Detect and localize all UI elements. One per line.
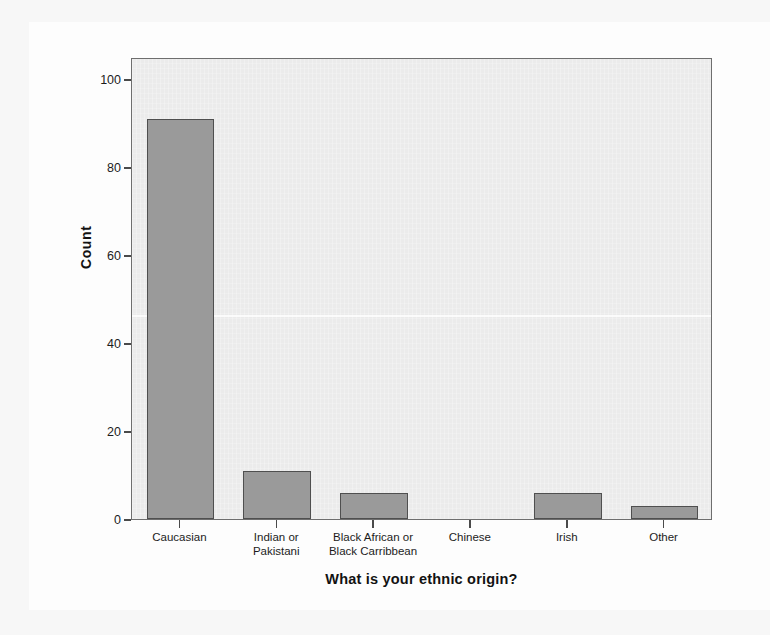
y-axis-tick-label: 20 <box>107 426 124 439</box>
y-axis-tick-label: 100 <box>100 74 124 87</box>
x-axis-tick-mark <box>276 520 278 528</box>
x-axis-tick-mark <box>469 520 471 528</box>
y-axis-tick-mark <box>124 255 131 257</box>
y-axis-tick-mark <box>124 167 131 169</box>
bar <box>147 119 215 519</box>
x-axis-tick-label: Irish <box>518 531 615 545</box>
x-axis-tick-mark <box>663 520 665 528</box>
y-axis-tick-mark <box>124 519 131 521</box>
x-axis-tick-label: Chinese <box>422 531 519 545</box>
y-axis-tick-label: 0 <box>114 514 124 527</box>
y-axis: 020406080100 <box>29 22 131 610</box>
x-axis-tick-label: Indian or Pakistani <box>228 531 325 558</box>
scan-artifact-line <box>132 315 711 317</box>
y-axis-title: Count <box>78 226 94 269</box>
bar-chart-figure: 020406080100 Count CaucasianIndian or Pa… <box>29 22 770 610</box>
y-axis-tick-label: 80 <box>107 162 124 175</box>
y-axis-tick-label: 60 <box>107 250 124 263</box>
x-axis-tick-label: Black African or Black Carribbean <box>325 531 422 558</box>
bar <box>243 471 311 519</box>
bar <box>631 506 699 519</box>
y-axis-tick-mark <box>124 79 131 81</box>
bar <box>534 493 602 519</box>
x-axis-tick-label: Caucasian <box>131 531 228 545</box>
x-axis-tick-mark <box>566 520 568 528</box>
x-axis-tick-mark <box>179 520 181 528</box>
x-axis-tick-label: Other <box>615 531 712 545</box>
bar <box>340 493 408 519</box>
scanned-page: 020406080100 Count CaucasianIndian or Pa… <box>29 22 770 610</box>
y-axis-tick-label: 40 <box>107 338 124 351</box>
x-axis-title: What is your ethnic origin? <box>131 571 712 587</box>
plot-area <box>131 58 712 520</box>
y-axis-tick-mark <box>124 431 131 433</box>
x-axis-tick-mark <box>372 520 374 528</box>
plot-background-texture <box>132 59 711 519</box>
y-axis-tick-mark <box>124 343 131 345</box>
